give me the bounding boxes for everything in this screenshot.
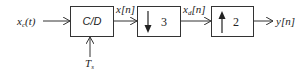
- downsample-factor: 3: [161, 15, 167, 29]
- cd-converter-block: C/D: [71, 7, 114, 37]
- input-signal-label: xc(t): [16, 15, 36, 29]
- output-signal-label: y[n]: [275, 15, 295, 27]
- down-arrow-icon: [145, 11, 152, 33]
- xn-label: x[n]: [115, 3, 135, 15]
- upsample-factor: 2: [233, 15, 239, 29]
- cd-converter-label: C/D: [83, 15, 102, 27]
- sampling-period-label: Ts: [85, 57, 94, 71]
- downsampler-block: 3: [138, 7, 181, 37]
- block-diagram: xc(t) C/D Ts x[n] 3 xd[n] 2 y[n]: [0, 0, 304, 71]
- up-arrow-icon: [219, 11, 226, 33]
- xdn-label: xd[n]: [182, 3, 205, 17]
- upsampler-block: 2: [212, 7, 254, 37]
